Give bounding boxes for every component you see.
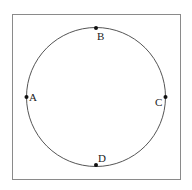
point-d: D [94,152,106,167]
point-b-label: B [97,30,104,42]
point-d-label: D [98,152,106,164]
point-c-label: C [155,96,162,108]
circle [27,28,166,167]
diagram-canvas: A B C D [0,0,192,190]
point-b: B [94,26,104,42]
point-a-label: A [29,91,37,103]
